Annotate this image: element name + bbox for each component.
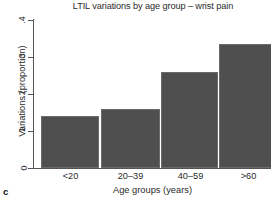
y-tick-label-2: .2 <box>0 89 26 99</box>
bar-0 <box>41 116 99 168</box>
y-tick-mark-0 <box>28 168 33 169</box>
chart-title: LTIL variations by age group – wrist pai… <box>38 1 268 12</box>
y-tick-label-1: .1 <box>0 126 26 136</box>
y-tick-mark-2 <box>28 94 33 95</box>
y-tick-mark-1 <box>28 131 33 132</box>
x-tick-label-2: 40–59 <box>161 171 220 181</box>
y-tick-label-4: .4 <box>0 15 26 25</box>
panel-label: c <box>3 186 8 197</box>
y-tick-label-0: 0 <box>0 163 26 173</box>
x-tick-label-0: <20 <box>41 171 100 181</box>
plot-area <box>34 20 271 168</box>
bar-3 <box>219 44 271 168</box>
y-tick-mark-4 <box>28 20 33 21</box>
y-tick-mark-3 <box>28 57 33 58</box>
x-tick-label-1: 20–39 <box>101 171 160 181</box>
x-axis-title: Age groups (years) <box>34 185 271 195</box>
chart-figure: LTIL variations by age group – wrist pai… <box>0 0 271 201</box>
bar-1 <box>101 109 160 168</box>
x-axis-line <box>33 168 271 169</box>
y-tick-label-3: .3 <box>0 52 26 62</box>
x-tick-label-3: >60 <box>219 171 271 181</box>
bar-2 <box>161 72 218 168</box>
